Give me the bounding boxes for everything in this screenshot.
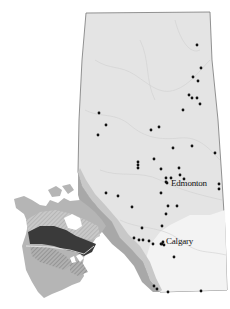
site-dot xyxy=(200,67,203,70)
site-dot xyxy=(218,183,221,186)
site-dot xyxy=(137,167,140,170)
site-dot xyxy=(148,240,151,243)
site-dot xyxy=(142,239,145,242)
site-dot xyxy=(199,103,202,106)
site-dot xyxy=(117,195,120,198)
site-dot xyxy=(172,147,175,150)
site-dot xyxy=(137,161,140,164)
site-dot xyxy=(153,158,156,161)
site-dot xyxy=(137,164,140,167)
site-dot xyxy=(158,126,161,129)
site-dot xyxy=(188,94,191,97)
site-dot xyxy=(218,188,221,191)
alberta-province xyxy=(78,12,227,292)
site-dot xyxy=(178,167,181,170)
site-dot xyxy=(162,241,165,244)
site-dot xyxy=(179,174,182,177)
site-dot xyxy=(105,124,108,127)
site-dot xyxy=(131,206,134,209)
alberta-map xyxy=(0,0,230,309)
site-dot xyxy=(163,244,166,247)
site-dot xyxy=(166,182,169,185)
site-dot xyxy=(160,192,163,195)
site-dot xyxy=(153,285,156,288)
site-dot xyxy=(200,290,203,293)
site-dot xyxy=(150,129,153,132)
site-dot xyxy=(165,213,168,216)
site-dot xyxy=(98,112,101,115)
site-dot xyxy=(160,168,163,171)
site-dot xyxy=(167,291,170,294)
city-label-calgary: Calgary xyxy=(166,236,193,246)
site-dot xyxy=(196,97,199,100)
site-dot xyxy=(191,97,194,100)
site-dot xyxy=(214,152,217,155)
site-dot xyxy=(97,134,100,137)
site-dot xyxy=(138,239,141,242)
site-dot xyxy=(161,225,164,228)
site-dot xyxy=(176,205,179,208)
site-dot xyxy=(152,243,155,246)
site-dot xyxy=(156,288,159,291)
site-dot xyxy=(167,205,170,208)
site-dot xyxy=(105,192,108,195)
site-dot xyxy=(165,177,168,180)
site-dot xyxy=(173,256,176,259)
city-label-edmonton: Edmonton xyxy=(171,178,207,188)
site-dot xyxy=(182,109,185,112)
site-dot xyxy=(197,80,200,83)
site-dot xyxy=(133,237,136,240)
site-dot xyxy=(196,44,199,47)
site-dot xyxy=(191,145,194,148)
site-dot xyxy=(141,227,144,230)
site-dot xyxy=(192,76,195,79)
